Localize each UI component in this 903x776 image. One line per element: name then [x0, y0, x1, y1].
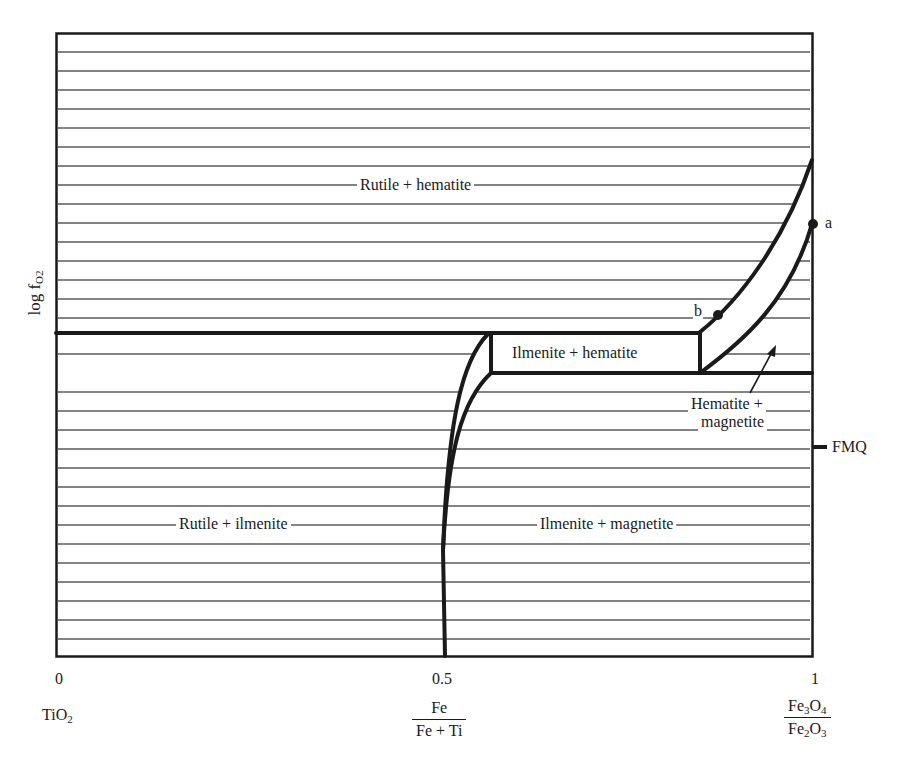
buffer-label-fmq: FMQ — [832, 438, 867, 456]
phase-diagram-canvas — [0, 0, 903, 776]
point-label-b: b — [693, 302, 703, 320]
x-label-fe-numerator: Fe — [412, 699, 466, 720]
y-axis-label-subscript: O2 — [33, 270, 45, 283]
x-label-fe3o4: Fe3O4 — [784, 697, 831, 718]
fe2o3-o-sub: 3 — [821, 727, 827, 739]
x-tick-1: 1 — [811, 670, 819, 688]
x-label-tio2: TiO2 — [42, 706, 73, 724]
field-label-rutile-hematite: Rutile + hematite — [357, 176, 474, 194]
fe2o3-fe: Fe — [788, 720, 804, 737]
fe3o4-fe: Fe — [788, 697, 804, 714]
fe3o4-o: O — [810, 697, 822, 714]
point-b-marker — [713, 310, 723, 320]
x-label-tio2-text: TiO — [42, 706, 67, 723]
x-label-fe2o3: Fe2O3 — [784, 718, 831, 738]
x-tick-0: 0 — [55, 670, 63, 688]
y-axis-label-text: log f — [25, 284, 44, 316]
field-label-ilmenite-magnetite: Ilmenite + magnetite — [537, 515, 676, 533]
field-label-ilmenite-hematite: Ilmenite + hematite — [509, 344, 640, 362]
x-tick-0-5: 0.5 — [432, 670, 452, 688]
field-label-rutile-ilmenite: Rutile + ilmenite — [176, 515, 291, 533]
x-label-fe-denominator: Fe + Ti — [412, 720, 466, 740]
point-label-a: a — [825, 214, 832, 232]
fe2o3-o: O — [810, 720, 822, 737]
arrow-icon — [750, 345, 776, 393]
y-axis-label: log fO2 — [25, 268, 45, 318]
point-a-marker — [808, 219, 818, 229]
x-label-fe-ratio: Fe Fe + Ti — [412, 699, 466, 740]
x-label-tio2-sub: 2 — [67, 713, 73, 725]
field-label-hematite-magnetite-1: Hematite + — [688, 395, 766, 413]
field-label-hematite-magnetite-2: magnetite — [698, 413, 767, 431]
fe3o4-o-sub: 4 — [821, 704, 827, 716]
x-label-fe-oxide-ratio: Fe3O4 Fe2O3 — [784, 697, 831, 738]
